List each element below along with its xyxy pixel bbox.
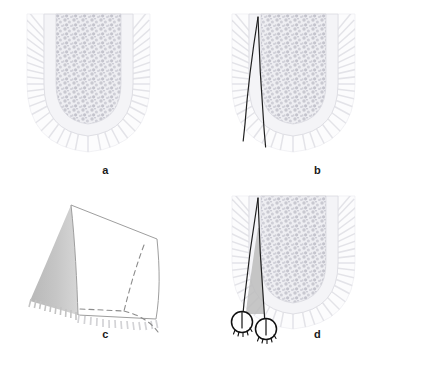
panel-label-c: c (0, 328, 211, 340)
trabecular-bone (56, 14, 121, 124)
trabecular-bone (261, 14, 326, 124)
panel-c: c (0, 183, 211, 366)
flap-shaded-side-face (29, 205, 78, 320)
panel-b: b (212, 0, 423, 183)
panel-a-illustration (0, 0, 211, 183)
panel-a: a (0, 0, 211, 183)
panel-label-a: a (0, 164, 211, 176)
panel-label-d: d (212, 328, 423, 340)
panel-b-illustration (212, 0, 423, 183)
trabecular-bone (261, 196, 326, 303)
figure-root: a (0, 0, 423, 366)
panel-label-b: b (212, 164, 423, 176)
panel-d: d (212, 183, 423, 366)
flap-top-face (71, 205, 159, 319)
